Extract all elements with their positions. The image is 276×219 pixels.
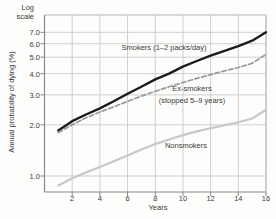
x-tick-label: 2: [70, 194, 74, 203]
series-label-nonsmokers: Nonsmokers: [165, 141, 207, 150]
y-tick-label: 7.0: [0, 28, 40, 37]
y-axis-title: Annual probability of dying (%): [7, 51, 16, 153]
x-axis-title: Years: [149, 203, 168, 212]
nonsmokers-line: [58, 110, 266, 186]
series-label-ex-smokers-line1: Ex-smokers: [159, 83, 226, 95]
x-tick-label: 10: [179, 194, 187, 203]
log-scale-note-line1: Log: [0, 3, 34, 12]
x-tick-label: 14: [234, 194, 242, 203]
chart-figure: Log scale 1.02.03.04.05.06.07.0 24681012…: [0, 0, 276, 219]
series-label-ex-smokers: Ex-smokers (stopped 5–9 years): [159, 83, 226, 106]
x-tick-label: 6: [125, 194, 129, 203]
x-tick-label: 4: [98, 194, 102, 203]
log-scale-note-line2: scale: [0, 12, 34, 21]
series-label-smokers: Smokers (1–2 packs/day): [121, 43, 206, 52]
y-tick-label: 6.0: [0, 39, 40, 48]
chart-canvas: [0, 0, 276, 219]
series-label-ex-smokers-line2: (stopped 5–9 years): [159, 94, 226, 106]
x-tick-label: 12: [206, 194, 214, 203]
x-tick-label: 16: [262, 194, 270, 203]
log-scale-note: Log scale: [0, 3, 34, 21]
x-tick-label: 8: [153, 194, 157, 203]
y-tick-label: 1.0: [0, 172, 40, 181]
